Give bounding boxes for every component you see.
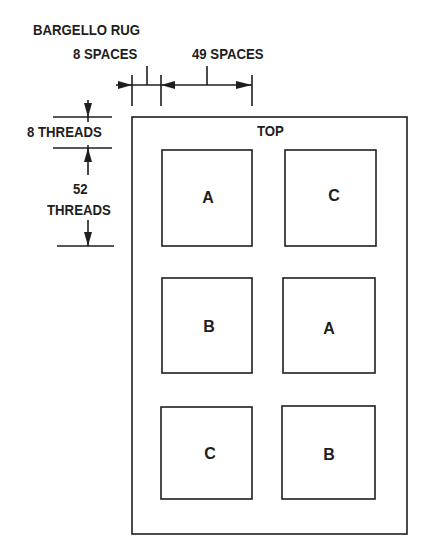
square-label-r1c1: A (188, 190, 228, 206)
rug-top-label: TOP (257, 123, 284, 138)
square-label-r3c1: C (190, 446, 230, 462)
square-label-r1c2: C (314, 188, 354, 204)
diagram-lines (0, 0, 427, 559)
square-label-r2c1: B (189, 319, 229, 335)
square-label-r3c2: B (309, 447, 349, 463)
square-label-r2c2: A (309, 321, 349, 337)
